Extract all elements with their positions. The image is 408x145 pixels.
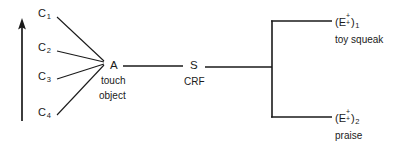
cue-label-c3: C3 [38, 71, 51, 82]
cue-line-c4 [57, 65, 104, 115]
outcome-1-description: toy squeak [335, 35, 383, 45]
cue-label-c1: C1 [38, 8, 51, 19]
outcome-2-description: praise [335, 131, 362, 141]
cue-line-c3 [57, 64, 104, 79]
node-s-line-1: CRF [184, 77, 205, 87]
outcome-2-symbol: (E++)2 [335, 111, 359, 124]
outcome-branch-bracket [271, 21, 332, 118]
cue-line-c2 [57, 51, 104, 62]
node-a-symbol: A [110, 60, 118, 72]
node-a-line-1: touch [101, 76, 125, 86]
upward-arrow-icon [18, 18, 26, 121]
cue-connector-lines [57, 17, 104, 115]
outcome-1-symbol: (E++)1 [335, 15, 359, 28]
node-s-symbol: S [190, 60, 198, 72]
cue-label-c2: C2 [38, 42, 51, 53]
behavior-chain-diagram: C1 C2 C3 C4 A touch object S CRF (E++)1 … [0, 0, 408, 145]
node-a-line-2: object [99, 91, 126, 101]
cue-line-c1 [57, 17, 104, 61]
cue-label-c4: C4 [38, 107, 51, 118]
